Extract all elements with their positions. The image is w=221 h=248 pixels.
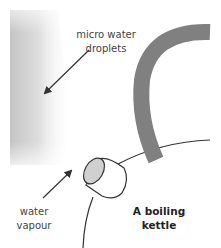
droplets-label: micro water droplets [66, 28, 146, 56]
kettle-body-outline [118, 140, 210, 164]
kettle-diagram: micro water droplets water vapour A boil… [0, 0, 221, 248]
kettle-spout [79, 154, 126, 198]
kettle-body-outline-lower [83, 197, 93, 248]
kettle-label: A boiling kettle [124, 204, 194, 232]
vapour-label: water vapour [12, 205, 56, 233]
vapour-arrow [43, 171, 71, 198]
